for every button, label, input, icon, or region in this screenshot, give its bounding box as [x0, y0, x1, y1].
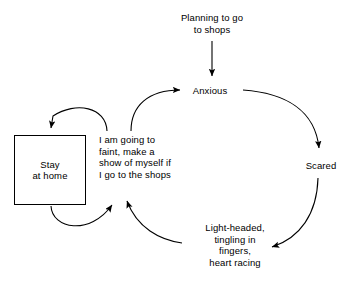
node-thought-i-am-going-to-faint: I am going to faint, make a show of myse… [99, 134, 187, 180]
diagram-canvas: Planning to go to shops Anxious Scared L… [0, 0, 356, 291]
connector-anxious-to-scared [243, 90, 319, 148]
node-emotion-anxious: Anxious [182, 85, 238, 97]
node-behaviour-box-stay-at-home: Stay at home [14, 135, 86, 205]
connector-thought-to-box [51, 108, 107, 131]
connector-thought-to-anxious [131, 90, 180, 131]
node-behaviour-label: Stay at home [32, 159, 67, 182]
node-emotion-scared: Scared [296, 160, 346, 172]
node-physical-symptoms: Light-headed, tingling in fingers, heart… [186, 222, 284, 268]
node-trigger-planning-to-go-to-shops: Planning to go to shops [164, 12, 260, 35]
connector-symptoms-to-thought [127, 201, 182, 243]
connector-box-to-thought [51, 205, 112, 226]
